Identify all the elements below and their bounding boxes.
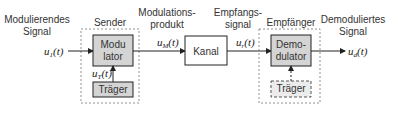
sender-label: Sender — [94, 17, 127, 28]
signal-ue: ur(t) — [236, 36, 255, 50]
mod-product-label: Modulations- — [138, 7, 195, 18]
receive-signal-label-2: signal — [225, 19, 251, 30]
output-signal-label: Demoduliertes — [321, 14, 385, 25]
carrier-receiver-label: Träger — [276, 83, 306, 94]
modulator-label: Modu — [100, 39, 125, 50]
input-signal-label: Modulierendes — [4, 14, 70, 25]
receiver-label: Empfänger — [267, 17, 317, 28]
receive-signal-label: Empfangs- — [214, 7, 262, 18]
modulator-label-2: lator — [103, 51, 123, 62]
signal-uT: uT(t) — [92, 67, 112, 81]
demodulator-label-2: dulator — [276, 51, 307, 62]
channel-label: Kanal — [193, 46, 219, 57]
mod-product-label-2: produkt — [150, 19, 184, 30]
input-signal-label-2: Signal — [23, 26, 51, 37]
block-diagram: Modulierendes Signal u1(t) Sender Modu l… — [0, 0, 403, 113]
signal-uM: uM(t) — [157, 36, 179, 50]
signal-u1: u1(t) — [44, 45, 64, 59]
carrier-sender-label: Träger — [98, 84, 128, 95]
demodulator-label: Demo- — [276, 39, 306, 50]
output-signal-label-2: Signal — [339, 26, 367, 37]
signal-ud: ud(t) — [348, 45, 368, 59]
